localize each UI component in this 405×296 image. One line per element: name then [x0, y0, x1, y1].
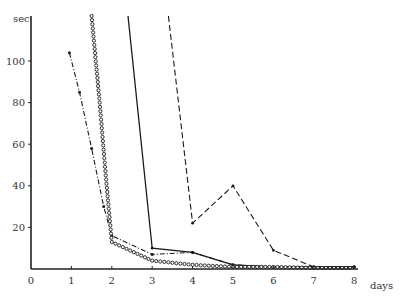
dotted-series-marker: [108, 220, 111, 223]
dotted-series-marker: [96, 80, 99, 83]
y-unit-label: sec: [13, 13, 30, 24]
dotted-series-marker: [227, 265, 230, 268]
dotted-series-marker: [105, 182, 108, 185]
dotted-series-marker: [93, 47, 96, 50]
series-line-solid: [128, 16, 354, 267]
dotted-series-marker: [195, 263, 198, 266]
dotted-series-marker: [107, 207, 110, 210]
dotted-series-marker: [98, 97, 101, 100]
dotted-series-marker: [264, 265, 267, 268]
dotted-series-marker: [244, 265, 247, 268]
dotted-series-marker: [252, 265, 255, 268]
x-tick-label: 2: [109, 275, 115, 286]
dotted-series-marker: [92, 39, 95, 42]
dotted-series-marker: [102, 152, 105, 155]
dotted-series-marker: [105, 186, 108, 189]
y-ticks: 20406080100: [6, 56, 31, 233]
dotted-series-marker: [91, 27, 94, 30]
dotted-series-marker: [183, 262, 186, 265]
data-point-marker: [151, 253, 154, 256]
dotted-series-marker: [100, 118, 103, 121]
dotted-series-marker: [109, 228, 112, 231]
dotted-series-marker: [114, 242, 117, 245]
y-tick-label: 40: [12, 180, 25, 191]
dotted-series-marker: [103, 161, 106, 164]
dotted-series-marker: [95, 72, 98, 75]
series-line-dashed: [168, 16, 354, 267]
dotted-series-marker: [175, 262, 178, 265]
x-tick-label: 4: [189, 275, 195, 286]
data-point-marker: [78, 91, 81, 94]
data-point-marker: [68, 51, 71, 54]
dotted-series-marker: [107, 203, 110, 206]
x-unit-label: days: [370, 280, 393, 291]
dotted-series-marker: [118, 244, 121, 247]
dotted-series-marker: [97, 93, 100, 96]
dotted-series-marker: [103, 157, 106, 160]
dotted-series-marker: [159, 260, 162, 263]
dotted-series-marker: [99, 114, 102, 117]
dotted-series-marker: [191, 263, 194, 266]
x-tick-label: 1: [68, 275, 74, 286]
dotted-series-marker: [211, 264, 214, 267]
dotted-series-marker: [93, 43, 96, 46]
dotted-series-marker: [276, 265, 279, 268]
dotted-series-marker: [103, 165, 106, 168]
series-layer: [68, 14, 356, 269]
data-point-marker: [151, 247, 154, 250]
dotted-series-marker: [179, 262, 182, 265]
x-tick-label: 7: [311, 275, 317, 286]
dotted-series-marker: [92, 35, 95, 38]
dotted-series-marker: [97, 85, 100, 88]
data-point-marker: [272, 249, 275, 252]
dotted-series-marker: [248, 265, 251, 268]
dotted-series-marker: [207, 264, 210, 267]
dotted-series-marker: [235, 265, 238, 268]
dotted-series-marker: [98, 101, 101, 104]
dotted-series-marker: [268, 265, 271, 268]
dotted-series-marker: [110, 240, 113, 243]
dotted-series-marker: [147, 257, 150, 260]
dotted-series-marker: [104, 170, 107, 173]
dotted-series-marker: [109, 224, 112, 227]
dotted-series-marker: [97, 89, 100, 92]
dotted-series-marker: [223, 265, 226, 268]
dotted-series-marker: [95, 68, 98, 71]
dotted-series-marker: [94, 52, 97, 55]
line-chart: 20406080100 012345678 sec days: [0, 0, 405, 296]
dotted-series-marker: [121, 246, 124, 249]
data-point-marker: [191, 222, 194, 225]
dotted-series-marker: [143, 256, 146, 259]
data-point-marker: [102, 205, 105, 208]
dotted-series-marker: [125, 247, 128, 250]
dotted-series-marker: [108, 211, 111, 214]
dotted-series-marker: [94, 60, 97, 63]
dotted-series-marker: [110, 236, 113, 239]
x-tick-label: 5: [230, 275, 236, 286]
dotted-series-marker: [167, 261, 170, 264]
data-point-marker: [191, 251, 194, 254]
data-point-marker: [232, 184, 235, 187]
x-tick-label: 8: [351, 275, 357, 286]
y-tick-label: 80: [12, 97, 25, 108]
dotted-series-marker: [92, 31, 95, 34]
dotted-series-marker: [104, 174, 107, 177]
dotted-series-marker: [101, 140, 104, 143]
dotted-series-marker: [256, 265, 259, 268]
y-tick-label: 20: [12, 222, 25, 233]
dotted-series-marker: [140, 254, 143, 257]
dotted-series-marker: [105, 178, 108, 181]
dotted-series-marker: [106, 195, 109, 198]
dotted-series-marker: [109, 232, 112, 235]
dotted-series-marker: [260, 265, 263, 268]
dotted-series-marker: [163, 260, 166, 263]
dotted-series-marker: [100, 122, 103, 125]
dotted-series-marker: [94, 56, 97, 59]
x-tick-label: 3: [149, 275, 155, 286]
dotted-series-marker: [106, 190, 109, 193]
series-line-dotted-circles: [92, 16, 355, 268]
x-tick-label: 0: [28, 275, 34, 286]
dotted-series-marker: [155, 260, 158, 263]
dotted-series-marker: [132, 251, 135, 254]
dotted-series-marker: [215, 265, 218, 268]
